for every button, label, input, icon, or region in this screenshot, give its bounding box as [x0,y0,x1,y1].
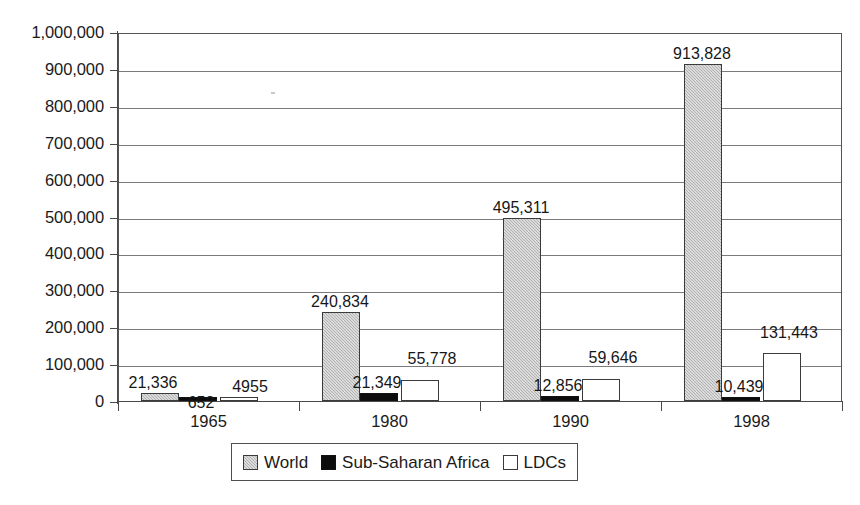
scan-speck [502,238,505,240]
y-axis-tick [110,328,119,329]
x-axis-tick-label: 1998 [661,412,842,430]
data-label-world-1990: 495,311 [486,200,557,216]
y-axis-tick-label: 100,000 [8,356,104,373]
x-axis-tick [480,402,481,411]
legend-swatch-world [243,455,258,470]
legend-label-sub-saharan-africa: Sub-Saharan Africa [342,454,489,471]
y-axis-tick [110,254,119,255]
legend-item-ldcs[interactable]: LDCs [503,454,567,471]
y-axis-tick [110,218,119,219]
data-label-ldc-1998: 131,443 [754,325,825,341]
x-axis-tick-label: 1965 [118,412,299,430]
data-label-ssa-1980: 21,349 [346,375,408,391]
x-axis-tick-label: 1980 [299,412,480,430]
y-axis-tick [110,291,119,292]
scan-speck [271,92,275,94]
y-axis-tick-label: 500,000 [8,209,104,226]
y-axis-tick [110,365,119,366]
gridline [119,366,841,367]
y-axis-tick [110,181,119,182]
y-axis-tick-label: 600,000 [8,172,104,189]
legend-label-world: World [264,454,308,471]
x-axis-tick-label: 1990 [480,412,661,430]
gridline [119,255,841,256]
gridline [119,329,841,330]
bar-ssa-1980 [360,393,398,401]
data-label-ssa-1965: 652 [184,395,219,411]
y-axis-tick-label: 900,000 [8,61,104,78]
y-axis-tick [110,33,119,34]
gridline [119,71,841,72]
y-axis-tick-label: 200,000 [8,319,104,336]
legend: World Sub-Saharan Africa LDCs [231,443,578,481]
x-axis-tick [118,402,119,411]
data-label-world-1965: 21,336 [122,375,184,391]
y-axis-tick [110,107,119,108]
bar-chart: 1,000,000900,000800,000700,000600,000500… [0,0,860,505]
data-label-ldc-1965: 4955 [228,379,272,395]
gridline [119,219,841,220]
gridline [119,145,841,146]
gridline [119,108,841,109]
legend-label-ldcs: LDCs [524,454,567,471]
y-axis-tick-label: 0 [8,393,104,410]
x-axis-tick [661,402,662,411]
y-axis-tick-label: 1,000,000 [8,24,104,41]
y-axis-tick-label: 700,000 [8,135,104,152]
x-axis-tick [299,402,300,411]
bar-world-1990 [503,218,541,401]
y-axis-tick-label: 800,000 [8,98,104,115]
x-axis-tick [842,402,843,411]
bar-world-1965 [141,393,179,401]
data-label-ssa-1998: 10,439 [708,379,770,395]
y-axis-tick [110,144,119,145]
y-axis-tick-label: 300,000 [8,282,104,299]
data-label-world-1998: 913,828 [667,46,738,62]
legend-item-sub-saharan-africa[interactable]: Sub-Saharan Africa [321,454,489,471]
data-label-world-1980: 240,834 [305,294,376,310]
gridline [119,292,841,293]
data-label-ldc-1980: 55,778 [401,351,463,367]
legend-swatch-sub-saharan-africa [321,455,336,470]
legend-swatch-ldcs [503,455,518,470]
plot-area [118,33,842,402]
data-label-ssa-1990: 12,856 [527,378,589,394]
gridline [119,182,841,183]
y-axis-tick-label: 400,000 [8,245,104,262]
bar-world-1998 [684,64,722,401]
y-axis-tick [110,70,119,71]
legend-item-world[interactable]: World [243,454,308,471]
data-label-ldc-1990: 59,646 [582,350,644,366]
